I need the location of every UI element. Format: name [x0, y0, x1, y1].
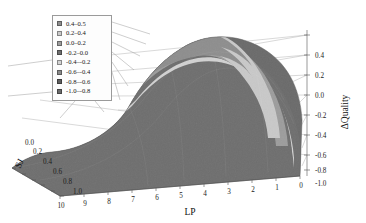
svg-text:-0.4: -0.4 [315, 132, 327, 140]
legend-label: -0.6–-0.4 [66, 69, 90, 76]
legend-item: -0.2–0.0 [57, 48, 108, 58]
z-axis-title: ΔQuality [340, 94, 350, 129]
svg-text:0: 0 [299, 182, 303, 190]
legend-swatch-icon [57, 79, 62, 84]
svg-text:5: 5 [179, 192, 183, 200]
legend-swatch-icon [57, 31, 62, 36]
x-axis-title: LP [184, 207, 195, 217]
legend-item: 0.4–0.5 [57, 19, 108, 29]
svg-text:6: 6 [155, 194, 159, 202]
legend-item: -0.6–-0.4 [57, 67, 108, 77]
legend-swatch-icon [57, 21, 62, 26]
legend-item: -0.4–-0.2 [57, 58, 108, 68]
svg-text:2: 2 [251, 186, 255, 194]
legend-swatch-icon [57, 41, 62, 46]
svg-text:-0.2: -0.2 [315, 112, 327, 120]
svg-text:1.0: 1.0 [73, 188, 82, 196]
svg-text:0.6: 0.6 [53, 168, 62, 176]
svg-text:4: 4 [203, 190, 207, 198]
svg-text:8: 8 [107, 198, 111, 206]
legend-label: 0.4–0.5 [66, 21, 86, 28]
zquality-tick-labels: 0.4 0.2 0.0 -0.2 -0.4 -0.6 -0.8 -1.0 [315, 52, 327, 188]
legend-item: 0.2–0.4 [57, 29, 108, 39]
surface-plot-figure: 0.0 0.2 0.4 0.6 0.8 1.0 10 9 8 7 6 5 4 3… [0, 0, 366, 223]
svg-text:7: 7 [131, 196, 135, 204]
legend-label: -0.4–-0.2 [66, 59, 90, 66]
svg-text:10: 10 [57, 202, 65, 210]
svg-text:0.2: 0.2 [315, 72, 324, 80]
svg-text:0.8: 0.8 [63, 178, 72, 186]
legend-item: -0.8–-0.6 [57, 77, 108, 87]
svg-text:0.4: 0.4 [315, 52, 324, 60]
legend-label: 0.0–0.2 [66, 40, 86, 47]
legend-label: 0.2–0.4 [66, 30, 86, 37]
legend-label: -1.0–-0.8 [66, 88, 90, 95]
svg-text:0.2: 0.2 [33, 148, 42, 156]
svg-text:-0.6: -0.6 [315, 152, 327, 160]
legend-swatch-icon [57, 70, 62, 75]
contour-band-legend: 0.4–0.5 0.2–0.4 0.0–0.2 -0.2–0.0 -0.4–-0… [52, 15, 112, 101]
svg-text:0.0: 0.0 [25, 139, 34, 147]
legend-swatch-icon [57, 60, 62, 65]
svg-text:-0.8: -0.8 [315, 167, 327, 175]
legend-label: -0.8–-0.6 [66, 79, 90, 86]
legend-swatch-icon [57, 89, 62, 94]
svg-text:0.0: 0.0 [315, 92, 324, 100]
svg-text:1: 1 [275, 184, 279, 192]
zquality-axis [304, 30, 310, 176]
svg-text:-1.0: -1.0 [315, 180, 327, 188]
legend-label: -0.2–0.0 [66, 50, 88, 57]
legend-item: 0.0–0.2 [57, 38, 108, 48]
svg-text:3: 3 [227, 188, 231, 196]
legend-swatch-icon [57, 50, 62, 55]
legend-item: -1.0–-0.8 [57, 87, 108, 97]
svg-text:0.4: 0.4 [43, 158, 52, 166]
svg-text:9: 9 [83, 200, 87, 208]
